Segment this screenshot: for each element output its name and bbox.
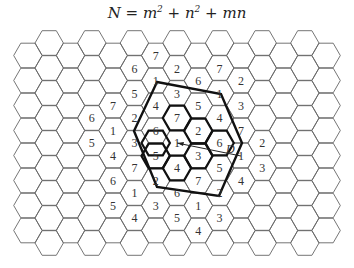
hex-cell: [14, 168, 42, 193]
hex-cell: [291, 31, 319, 56]
hex-cell: [312, 68, 340, 93]
hex-cell: [291, 156, 319, 181]
hex-cell: [312, 168, 340, 193]
hex-cell: [35, 231, 63, 256]
hex-cell: [99, 68, 127, 93]
hex-cell: [269, 143, 297, 168]
hex-cell: [291, 106, 319, 131]
hex-cell: [35, 56, 63, 81]
cell-channel-label: 6: [131, 62, 137, 76]
hex-cell: [248, 181, 276, 206]
hex-cell: [312, 43, 340, 68]
cell-channel-label: 6: [153, 124, 159, 138]
cell-channel-label: 5: [89, 136, 95, 150]
hex-cell: [14, 68, 42, 93]
cell-channel-label: 6: [89, 111, 95, 125]
hex-cell: [78, 81, 106, 106]
hex-cell: [248, 56, 276, 81]
hex-cell: [269, 93, 297, 118]
hex-cell: [56, 118, 84, 143]
cell-channel-label: 2: [238, 74, 244, 88]
cell-channel-label: 5: [153, 149, 159, 163]
hex-cell: [35, 181, 63, 206]
hex-cell: [14, 193, 42, 218]
reuse-distance-vector: D: [177, 142, 241, 156]
cell-channel-label: 1: [195, 199, 201, 213]
hex-cell: [269, 118, 297, 143]
hex-cell: [291, 231, 319, 256]
hex-cell: [14, 118, 42, 143]
cell-channel-label: 3: [238, 99, 244, 113]
cell-channel-label: 6: [110, 174, 116, 188]
hex-cell: [269, 193, 297, 218]
hex-cell: [163, 31, 191, 56]
hex-cell: [78, 231, 106, 256]
cell-channel-label: 7: [131, 161, 137, 175]
cell-channel-label: 3: [174, 87, 180, 101]
hex-cell: [291, 206, 319, 231]
hex-cell: [14, 143, 42, 168]
cell-channel-label: 5: [195, 99, 201, 113]
hex-cell: [312, 193, 340, 218]
distance-label: D: [225, 142, 235, 156]
hex-cell: [35, 131, 63, 156]
hexagonal-cell-diagram: D 76271625317453627416275316245317453627…: [0, 0, 354, 268]
hex-cell: [312, 218, 340, 243]
hex-cell: [56, 193, 84, 218]
cell-channel-label: 6: [174, 186, 180, 200]
cell-channel-label: 6: [195, 74, 201, 88]
cell-channel-label: 1: [110, 124, 116, 138]
hex-cell: [142, 218, 170, 243]
cell-channel-label: 7: [110, 99, 116, 113]
hex-cell: [248, 206, 276, 231]
hex-cell: [120, 31, 148, 56]
cell-channel-label: 4: [217, 111, 223, 125]
cell-channel-label: 1: [174, 136, 180, 150]
cell-channel-label: 2: [131, 111, 137, 125]
hex-cell: [269, 43, 297, 68]
cell-channel-label: 2: [195, 124, 201, 138]
hex-cell: [14, 218, 42, 243]
hex-cell: [248, 106, 276, 131]
cell-channel-label: 7: [195, 174, 201, 188]
hex-cell: [291, 56, 319, 81]
hex-cell: [227, 43, 255, 68]
hex-cell: [248, 31, 276, 56]
hex-cell: [56, 43, 84, 68]
hex-cell: [312, 143, 340, 168]
cell-channel-label: 4: [195, 224, 201, 238]
hex-cell: [269, 218, 297, 243]
hex-cell: [14, 93, 42, 118]
hex-cell: [99, 218, 127, 243]
hex-cell: [35, 81, 63, 106]
cell-channel-label: 4: [153, 99, 159, 113]
hex-cell: [248, 81, 276, 106]
cell-channel-label: 2: [259, 136, 265, 150]
cell-channel-label: 3: [153, 199, 159, 213]
cell-channel-label: 5: [131, 87, 137, 101]
cell-channel-label: 5: [217, 161, 223, 175]
hex-cell: [35, 206, 63, 231]
cell-channel-label: 2: [153, 174, 159, 188]
hex-cell: [205, 31, 233, 56]
hex-cell: [35, 106, 63, 131]
cell-channel-label: 5: [174, 211, 180, 225]
hex-cell: [312, 118, 340, 143]
cell-channel-label: 4: [174, 161, 180, 175]
hex-cell: [227, 218, 255, 243]
cell-channel-label: 7: [238, 124, 244, 138]
hex-cell: [184, 43, 212, 68]
hex-cell: [56, 218, 84, 243]
hex-cell: [56, 68, 84, 93]
cell-channel-label: 7: [153, 49, 159, 63]
hex-cell: [14, 43, 42, 68]
cell-channel-label: 3: [195, 149, 201, 163]
hex-cell: [291, 131, 319, 156]
cell-channel-label: 2: [174, 62, 180, 76]
hex-cell: [56, 93, 84, 118]
cell-channel-label: 2: [217, 186, 223, 200]
cell-channel-label: 4: [110, 149, 116, 163]
cell-channel-label: 3: [131, 136, 137, 150]
hex-cell: [78, 31, 106, 56]
hex-cell: [78, 206, 106, 231]
